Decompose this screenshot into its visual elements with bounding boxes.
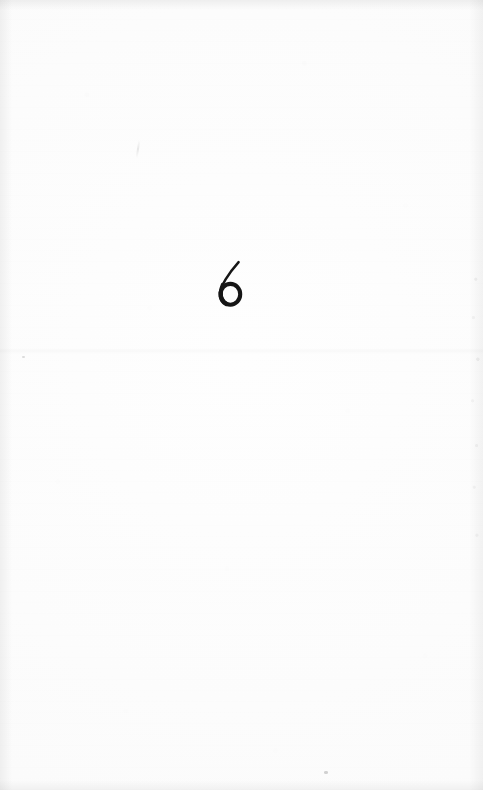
scan-edge-shadow-bottom [0,780,483,790]
page-number: 6 [210,256,256,312]
paper-grain [0,0,483,790]
dust-speck-left [22,356,25,358]
scan-edge-shadow-left [0,0,12,790]
scan-noise-speckle [467,260,483,580]
scan-edge-shadow-top [0,0,483,10]
scanned-page: 6 [0,0,483,790]
dust-speck-bottom [324,771,328,774]
fold-crease [0,348,483,354]
